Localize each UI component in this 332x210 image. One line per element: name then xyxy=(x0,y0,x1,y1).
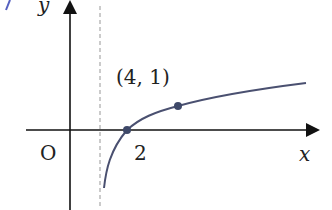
point-4-1 xyxy=(174,102,182,110)
x-tick-label-2: 2 xyxy=(134,143,147,163)
graph-canvas xyxy=(0,0,332,210)
cropped-fragment xyxy=(6,0,10,10)
x-axis-label: x xyxy=(299,144,310,164)
point-label-4-1: (4, 1) xyxy=(116,67,170,87)
origin-label: O xyxy=(40,143,56,163)
y-axis-label: y xyxy=(38,0,49,15)
log-curve xyxy=(104,83,306,188)
y-axis-arrow-icon xyxy=(63,0,77,14)
x-axis-arrow-icon xyxy=(306,123,320,137)
point-2-0 xyxy=(123,126,131,134)
